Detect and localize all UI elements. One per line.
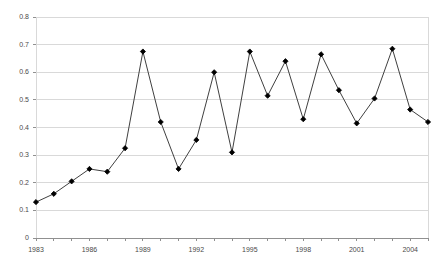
y-axis-tick-label: 0.1 xyxy=(7,206,29,214)
data-point-marker xyxy=(336,88,341,93)
data-point-marker xyxy=(212,70,217,75)
data-point-marker xyxy=(140,49,145,54)
y-axis-tick-label: 0.7 xyxy=(7,41,29,49)
line-chart: 00.10.20.30.40.50.60.70.8198319861989199… xyxy=(0,0,440,268)
data-point-marker xyxy=(229,150,234,155)
data-point-marker xyxy=(158,119,163,124)
x-axis-tick-label: 1998 xyxy=(288,246,318,254)
x-axis-tick-label: 1995 xyxy=(235,246,265,254)
y-axis-tick-label: 0.5 xyxy=(7,96,29,104)
x-axis-tick-label: 2004 xyxy=(395,246,425,254)
x-axis-tick-label: 1986 xyxy=(74,246,104,254)
y-axis-tick-label: 0.2 xyxy=(7,179,29,187)
y-axis-tick-label: 0.8 xyxy=(7,13,29,21)
data-point-marker xyxy=(265,93,270,98)
data-point-marker xyxy=(283,59,288,64)
x-axis-tick-label: 1992 xyxy=(181,246,211,254)
data-point-marker xyxy=(247,49,252,54)
data-point-marker xyxy=(301,117,306,122)
x-axis-tick-label: 2001 xyxy=(342,246,372,254)
x-axis-tick-label: 1983 xyxy=(21,246,51,254)
data-point-marker xyxy=(194,137,199,142)
y-axis-tick-label: 0.4 xyxy=(7,124,29,132)
y-axis-tick-label: 0.6 xyxy=(7,68,29,76)
data-point-marker xyxy=(176,166,181,171)
x-axis-tick-label: 1989 xyxy=(128,246,158,254)
data-point-marker xyxy=(33,199,38,204)
data-point-marker xyxy=(318,52,323,57)
y-axis-tick-label: 0.3 xyxy=(7,151,29,159)
y-axis-tick-label: 0 xyxy=(7,234,29,242)
chart-canvas xyxy=(0,0,440,268)
data-point-marker xyxy=(390,46,395,51)
